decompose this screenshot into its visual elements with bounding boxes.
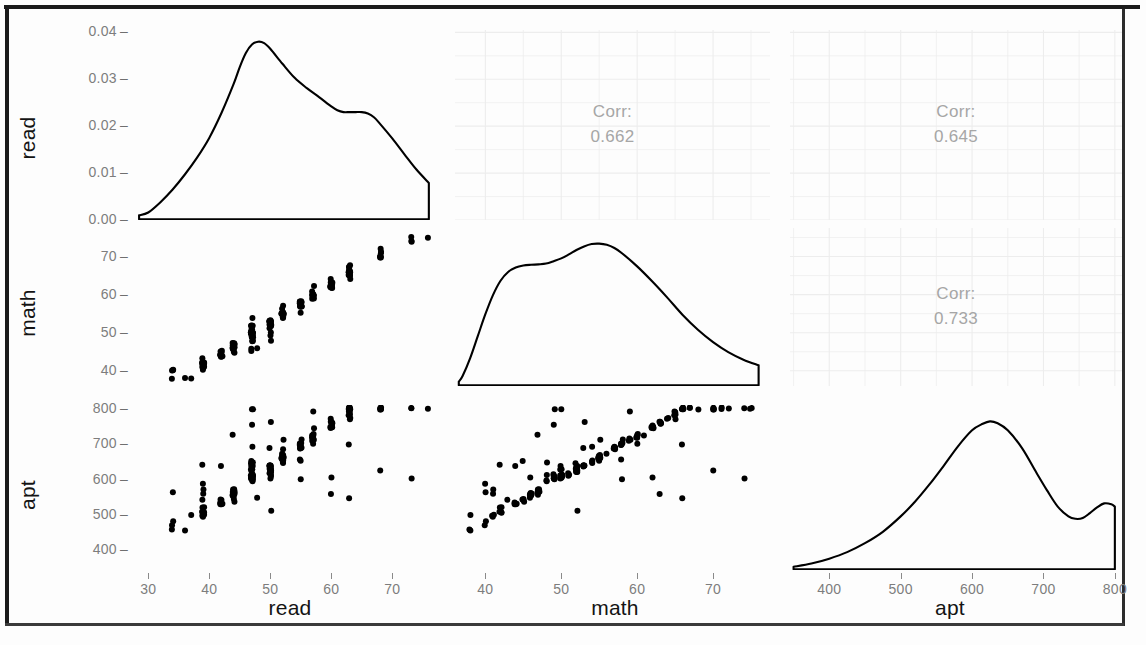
data-point xyxy=(346,495,352,501)
data-point xyxy=(297,457,303,463)
data-point xyxy=(249,323,255,329)
data-point xyxy=(597,437,603,443)
data-point xyxy=(250,476,256,482)
x-tick-mark xyxy=(829,573,830,579)
data-point xyxy=(482,481,488,487)
scatter-panel-apt-vs-math xyxy=(455,405,770,570)
scatter-panel-math-vs-read xyxy=(133,228,438,386)
data-point xyxy=(377,254,383,260)
data-point xyxy=(519,497,525,503)
col-label-apt: apt xyxy=(800,596,1100,620)
data-point xyxy=(559,472,565,478)
data-point xyxy=(281,437,287,443)
data-point xyxy=(311,425,317,431)
y-tick-label: 50– xyxy=(101,324,128,340)
data-point xyxy=(218,354,224,360)
row-label-apt: apt xyxy=(16,445,40,545)
data-point xyxy=(311,283,317,289)
density-curve-read xyxy=(133,30,438,220)
data-point xyxy=(618,457,624,463)
density-curve-apt xyxy=(790,405,1122,570)
data-point xyxy=(346,441,352,447)
density-path xyxy=(139,42,429,220)
data-point xyxy=(552,476,558,482)
data-point xyxy=(378,407,384,413)
data-point xyxy=(673,412,679,418)
data-point xyxy=(298,310,304,316)
row-label-read: read xyxy=(16,88,40,188)
data-point xyxy=(687,405,693,411)
data-point xyxy=(188,375,194,381)
data-point xyxy=(573,466,579,472)
data-point xyxy=(627,408,633,414)
data-point xyxy=(377,468,383,474)
data-point xyxy=(169,367,175,373)
data-point xyxy=(618,441,624,447)
data-point xyxy=(268,508,274,514)
y-tick-label: 0.02– xyxy=(88,117,128,133)
y-tick-label: 800– xyxy=(93,400,128,416)
data-point xyxy=(611,445,617,451)
data-point xyxy=(491,512,497,518)
y-tick-label: 70– xyxy=(101,248,128,264)
y-tick-label: 0.01– xyxy=(88,164,128,180)
y-tick-label: 400– xyxy=(93,541,128,557)
scatter-points-apt-math xyxy=(455,405,770,570)
data-point xyxy=(641,433,647,439)
data-point xyxy=(249,444,255,450)
data-point xyxy=(347,406,353,412)
data-point xyxy=(580,445,586,451)
x-tick-mark xyxy=(1043,573,1044,579)
data-point xyxy=(650,424,656,430)
corr-label: Corr: xyxy=(936,100,975,125)
density-panel-apt xyxy=(790,405,1122,570)
col-label-math: math xyxy=(465,596,765,620)
x-tick-label: 800 xyxy=(1103,581,1127,597)
data-point xyxy=(634,441,640,447)
data-point xyxy=(182,375,188,381)
x-tick-label: 400 xyxy=(817,581,841,597)
y-tick-label: 700– xyxy=(93,435,128,451)
data-point xyxy=(248,463,254,469)
data-point xyxy=(582,419,588,425)
data-point xyxy=(249,406,255,412)
density-path xyxy=(459,244,759,386)
data-point xyxy=(665,415,671,421)
x-tick-mark xyxy=(901,573,902,579)
data-point xyxy=(650,474,656,480)
data-point xyxy=(327,283,333,289)
y-tick-label: 500– xyxy=(93,506,128,522)
data-point xyxy=(512,500,518,506)
y-tick-label: 0.00– xyxy=(88,211,128,227)
col-label-read: read xyxy=(145,596,435,620)
data-point xyxy=(626,435,632,441)
data-point xyxy=(218,463,224,469)
data-point xyxy=(328,474,334,480)
data-point xyxy=(425,406,431,412)
data-point xyxy=(378,249,384,255)
data-point xyxy=(409,475,415,481)
data-point xyxy=(310,432,316,438)
data-point xyxy=(535,492,541,498)
density-curve-math xyxy=(455,228,770,386)
corr-number: 0.662 xyxy=(590,125,634,150)
x-tick-label: 500 xyxy=(889,581,913,597)
data-point xyxy=(230,432,236,438)
data-point xyxy=(497,462,503,468)
scanned-page: read math apt read math apt 0.04–0.03–0.… xyxy=(0,0,1146,645)
data-point xyxy=(504,497,510,503)
data-point xyxy=(280,459,286,465)
data-point xyxy=(254,495,260,501)
data-point xyxy=(230,340,236,346)
y-axis-read-density: 0.04–0.03–0.02–0.01–0.00– xyxy=(60,40,128,220)
density-path xyxy=(794,421,1115,569)
x-tick-label: 600 xyxy=(960,581,984,597)
data-point xyxy=(552,406,558,412)
data-point xyxy=(482,522,488,528)
y-axis-math: 70–60–50–40– xyxy=(60,230,128,390)
corr-value-read-math: Corr: 0.662 xyxy=(455,30,770,220)
data-point xyxy=(346,268,352,274)
data-point xyxy=(268,338,274,344)
data-point xyxy=(534,432,540,438)
data-point xyxy=(589,444,595,450)
